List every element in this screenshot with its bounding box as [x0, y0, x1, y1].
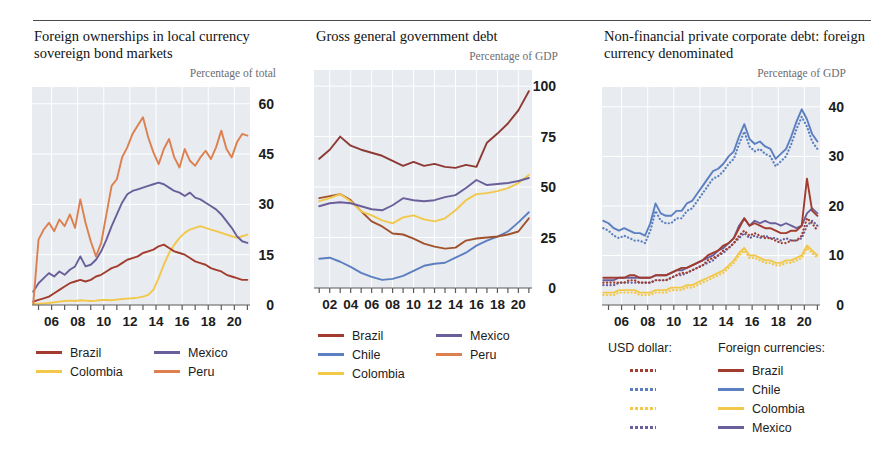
chart-panel-corporate-debt: Non-financial private corporate debt: fo… — [598, 28, 882, 458]
legend-swatch-icon — [436, 353, 462, 356]
legend-swatch-icon — [718, 407, 744, 410]
legend-item: Mexico — [436, 326, 554, 345]
y-tick-label: 40 — [828, 99, 844, 115]
legend-label: Mexico — [752, 421, 792, 435]
x-tick-label: 20 — [511, 297, 526, 312]
legend-swatch-icon — [36, 370, 62, 373]
x-tick-label: 08 — [385, 297, 401, 312]
legend-label: Mexico — [470, 329, 510, 343]
panel-title: Gross general government debt — [316, 28, 586, 45]
legend-swatch-dotted-icon — [630, 407, 656, 410]
x-tick-label: 14 — [148, 314, 164, 329]
chart-panel-foreign-ownership: Foreign ownerships in local currency sov… — [28, 28, 318, 458]
legend-swatch-dotted-icon — [630, 388, 656, 391]
legend-label: Brazil — [752, 364, 783, 378]
x-tick-label: 20 — [797, 314, 812, 329]
x-tick-label: 10 — [406, 297, 421, 312]
x-tick-label: 20 — [227, 314, 242, 329]
x-tick-label: 02 — [322, 297, 337, 312]
panel-units-label: Percentage of GDP — [598, 67, 846, 79]
legend-swatch-icon — [154, 351, 180, 354]
legend-item — [608, 418, 718, 437]
y-tick-label: 75 — [540, 129, 556, 145]
legend-item: Chile — [318, 345, 436, 364]
x-tick-label: 14 — [448, 297, 464, 312]
chart-legend: BrazilColombiaMexicoPeru — [36, 343, 318, 381]
legend-item: Peru — [154, 362, 272, 381]
plot-background — [602, 87, 820, 305]
x-tick-label: 08 — [70, 314, 86, 329]
legend-swatch-icon — [318, 353, 344, 356]
x-tick-label: 18 — [490, 297, 506, 312]
legend-item — [608, 399, 718, 418]
y-tick-label: 20 — [828, 198, 844, 214]
legend-item — [608, 361, 718, 380]
legend-heading-foreign: Foreign currencies: — [718, 341, 882, 361]
legend-column: BrazilChileColombia — [318, 326, 436, 383]
chart-legend: BrazilChileColombiaMexicoPeru — [318, 326, 600, 383]
panel-units-label: Percentage of GDP — [310, 50, 558, 62]
x-tick-label: 06 — [614, 314, 630, 329]
x-tick-label: 16 — [745, 314, 761, 329]
legend-label: Chile — [752, 383, 781, 397]
legend-column: MexicoPeru — [154, 343, 272, 381]
legend-column: BrazilColombia — [36, 343, 154, 381]
plot-area: 0608101214161820015304560 — [28, 81, 318, 339]
x-tick-label: 16 — [469, 297, 485, 312]
legend-item: Chile — [718, 380, 882, 399]
legend-item: Mexico — [154, 343, 272, 362]
legend-swatch-icon — [718, 388, 744, 391]
y-tick-label: 100 — [533, 78, 557, 94]
legend-label: Mexico — [188, 346, 228, 360]
legend-item: Brazil — [718, 361, 882, 380]
x-tick-label: 18 — [771, 314, 787, 329]
x-tick-label: 14 — [718, 314, 734, 329]
legend-item: Colombia — [718, 399, 882, 418]
y-tick-label: 15 — [258, 247, 274, 263]
panel-title: Foreign ownerships in local currency sov… — [34, 28, 304, 62]
legend-swatch-dotted-icon — [630, 426, 656, 429]
legend-swatch-icon — [36, 351, 62, 354]
chart-panel-government-debt: Gross general government debt Percentage… — [310, 28, 600, 458]
legend-swatch-icon — [436, 334, 462, 337]
x-tick-label: 12 — [122, 314, 137, 329]
legend-item: Colombia — [318, 364, 436, 383]
y-tick-label: 60 — [258, 96, 274, 112]
legend-label: Colombia — [752, 402, 805, 416]
plot-background — [314, 70, 532, 288]
top-rule — [33, 20, 871, 21]
x-tick-label: 12 — [692, 314, 707, 329]
legend-item: Colombia — [36, 362, 154, 381]
legend-label: Peru — [470, 348, 496, 362]
legend-column: MexicoPeru — [436, 326, 554, 364]
plot-area: 020406081012141618200255075100 — [310, 64, 600, 322]
y-tick-label: 30 — [828, 148, 844, 164]
legend-swatch-icon — [318, 334, 344, 337]
x-tick-label: 12 — [427, 297, 442, 312]
x-tick-label: 10 — [96, 314, 111, 329]
x-tick-label: 18 — [201, 314, 217, 329]
y-tick-label: 25 — [540, 230, 556, 246]
y-tick-label: 0 — [548, 280, 556, 296]
y-tick-label: 0 — [836, 297, 844, 313]
legend-swatch-icon — [718, 369, 744, 372]
legend-item — [608, 380, 718, 399]
legend-swatch-icon — [718, 426, 744, 429]
legend-swatch-dotted-icon — [630, 369, 656, 372]
plot-area: 0608101214161820010203040 — [598, 81, 882, 339]
legend-item: Brazil — [36, 343, 154, 362]
x-tick-label: 04 — [343, 297, 359, 312]
legend-item: Peru — [436, 345, 554, 364]
legend-heading-usd: USD dollar: — [608, 341, 718, 361]
legend-label: Brazil — [70, 346, 101, 360]
x-tick-label: 08 — [640, 314, 656, 329]
y-tick-label: 10 — [828, 247, 844, 263]
legend-swatch-icon — [154, 370, 180, 373]
legend-swatch-icon — [318, 372, 344, 375]
legend-item: Mexico — [718, 418, 882, 437]
panel-title: Non-financial private corporate debt: fo… — [604, 28, 874, 62]
y-tick-label: 30 — [258, 196, 274, 212]
x-tick-label: 16 — [175, 314, 191, 329]
x-tick-label: 06 — [44, 314, 60, 329]
legend-label: Peru — [188, 365, 214, 379]
